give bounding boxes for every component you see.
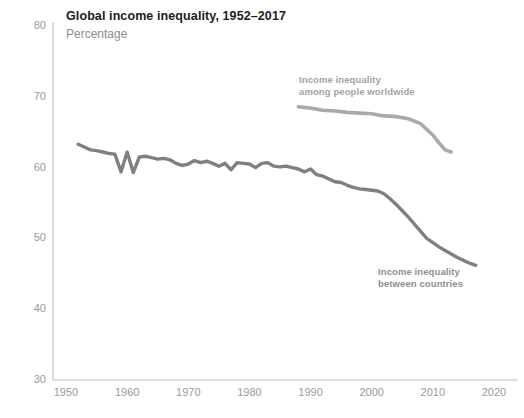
series-annotation-between-line2: between countries [378, 278, 463, 290]
page-title: Global income inequality, 1952–2017 [66, 9, 366, 24]
y-tick-30: 30 [20, 373, 46, 385]
title-block: Global income inequality, 1952–2017 Perc… [66, 9, 366, 42]
series-annotation-worldwide-line2: among people worldwide [299, 86, 415, 98]
series-annotation-worldwide-line1: Income inequality [299, 74, 415, 86]
series-line-between-countries [78, 144, 475, 265]
x-tick-1990: 1990 [291, 386, 331, 398]
series-annotation-between-countries: Income inequality between countries [378, 266, 463, 289]
y-tick-60: 60 [20, 161, 46, 173]
series-annotation-between-line1: Income inequality [378, 266, 463, 278]
x-tick-1970: 1970 [168, 386, 208, 398]
series-group [78, 107, 475, 266]
x-tick-2000: 2000 [352, 386, 392, 398]
series-annotation-worldwide: Income inequality among people worldwide [299, 74, 415, 97]
chart-container: Global income inequality, 1952–2017 Perc… [0, 0, 524, 418]
chart-subtitle: Percentage [66, 27, 366, 42]
x-tick-2010: 2010 [413, 386, 453, 398]
y-tick-70: 70 [20, 90, 46, 102]
x-tick-1950: 1950 [46, 386, 86, 398]
x-tick-2020: 2020 [474, 386, 514, 398]
x-tick-1980: 1980 [229, 386, 269, 398]
axes-group [53, 22, 518, 380]
series-line-worldwide [298, 107, 451, 152]
y-tick-40: 40 [20, 302, 46, 314]
x-tick-1960: 1960 [107, 386, 147, 398]
y-tick-50: 50 [20, 231, 46, 243]
chart-canvas [0, 0, 524, 418]
y-tick-80: 80 [20, 19, 46, 31]
